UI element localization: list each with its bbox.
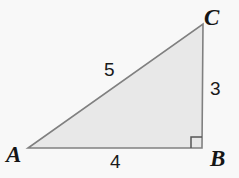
geometry-figure: C A B 5 3 4 [0,0,239,178]
side-label-hypotenuse: 5 [104,60,115,79]
vertex-label-a: A [6,143,21,166]
side-label-horizontal-leg: 4 [110,152,121,171]
vertex-label-c: C [204,6,219,29]
vertex-label-b: B [210,147,225,170]
side-label-vertical-leg: 3 [210,79,221,98]
